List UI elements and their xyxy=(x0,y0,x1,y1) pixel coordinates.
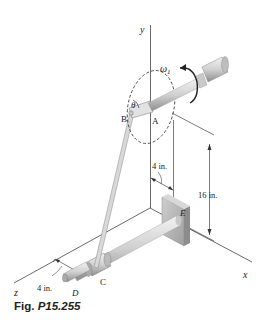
mechanism-diagram: y x z ω1 θ B A E C D 4 in. 16 in. 4 in. xyxy=(0,0,264,331)
point-e-label: E xyxy=(179,208,186,218)
y-axis-label: y xyxy=(139,24,145,35)
point-a-label: A xyxy=(152,116,159,126)
figure-caption: Fig. P15.255 xyxy=(14,300,81,312)
point-d-label: D xyxy=(71,288,79,298)
point-c-label: C xyxy=(100,277,106,287)
dimension-4in-upper-label: 4 in. xyxy=(152,161,167,171)
dimension-4in-upper xyxy=(151,172,173,190)
caption-number: P15.255 xyxy=(38,300,81,312)
z-axis-label: z xyxy=(13,287,18,298)
theta-label: θ xyxy=(131,100,136,110)
caption-prefix: Fig. xyxy=(14,300,34,312)
point-b-label: B xyxy=(121,114,127,124)
dimension-16in-label: 16 in. xyxy=(198,190,217,200)
x-axis-label: x xyxy=(242,269,248,280)
dimension-4in-lower-label: 4 in. xyxy=(37,283,52,293)
